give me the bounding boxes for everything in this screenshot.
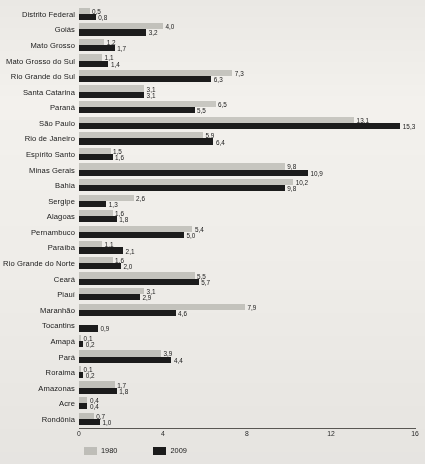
bar-value-label: 2,9 xyxy=(142,294,151,301)
bar-2009 xyxy=(79,357,171,363)
bar-value-label: 1,3 xyxy=(109,200,118,207)
bar-2009 xyxy=(79,107,195,113)
bar-row: Paraíba1,12,1 xyxy=(79,240,415,256)
bar-2009 xyxy=(79,294,140,300)
bar-value-label: 2,1 xyxy=(126,247,135,254)
bar-2009 xyxy=(79,61,108,67)
bar-value-label: 1,8 xyxy=(119,216,128,223)
bar-value-label: 5,4 xyxy=(195,225,204,232)
bar-value-label: 4,4 xyxy=(174,356,183,363)
legend-item-2009: 2009 xyxy=(153,446,186,455)
bar-value-label: 1,6 xyxy=(115,154,124,161)
bar-row: Paraná6,55,5 xyxy=(79,99,415,115)
bar-value-label: 6,5 xyxy=(218,101,227,108)
x-tick-12: 12 xyxy=(327,430,335,437)
bar-value-label: 7,9 xyxy=(247,303,256,310)
bar-2009 xyxy=(79,419,100,425)
bar-row: Distrito Federal0,50,8 xyxy=(79,6,415,22)
legend-swatch-2009 xyxy=(153,447,166,455)
category-label: Espírito Santo xyxy=(26,149,75,158)
bar-row: Rio Grande do Norte1,62,0 xyxy=(79,255,415,271)
bar-row: Maranhão7,94,6 xyxy=(79,302,415,318)
category-label: Rio Grande do Sul xyxy=(11,72,75,81)
bar-value-label: 0,4 xyxy=(90,403,99,410)
bar-value-label: 3,1 xyxy=(147,91,156,98)
bar-value-label: 1,0 xyxy=(103,418,112,425)
bar-value-label: 5,5 xyxy=(197,107,206,114)
bar-row: Alagoas1,61,8 xyxy=(79,209,415,225)
category-label: Santa Catarina xyxy=(23,87,75,96)
bar-value-label: 5,7 xyxy=(201,278,210,285)
bar-value-label: 15,3 xyxy=(403,122,415,129)
bar-row: Amapá0,10,2 xyxy=(79,333,415,349)
bar-2009 xyxy=(79,216,117,222)
bar-rows: Distrito Federal0,50,8Goiás4,03,2Mato Gr… xyxy=(79,6,415,427)
bar-value-label: 0,8 xyxy=(98,13,107,20)
bar-row: Santa Catarina3,13,1 xyxy=(79,84,415,100)
bar-value-label: 9,8 xyxy=(287,185,296,192)
bar-value-label: 4,0 xyxy=(166,23,175,30)
category-label: Rondônia xyxy=(42,414,75,423)
category-label: Pará xyxy=(59,352,75,361)
bar-2009 xyxy=(79,138,213,144)
bar-2009 xyxy=(79,263,121,269)
bar-value-label: 5,0 xyxy=(187,231,196,238)
category-label: Sergipe xyxy=(48,196,75,205)
category-label: Rio de Janeiro xyxy=(25,134,75,143)
bar-row: Sergipe2,61,3 xyxy=(79,193,415,209)
bar-2009 xyxy=(79,76,211,82)
bar-row: Espírito Santo1,51,6 xyxy=(79,146,415,162)
category-label: Mato Grosso xyxy=(30,40,75,49)
bar-row: Ceará5,55,7 xyxy=(79,271,415,287)
bar-2009 xyxy=(79,341,83,347)
bar-row: Pará3,94,4 xyxy=(79,349,415,365)
bar-row: Mato Grosso1,21,7 xyxy=(79,37,415,53)
bar-value-label: 6,3 xyxy=(214,76,223,83)
category-label: Tocantins xyxy=(42,321,75,330)
category-label: Distrito Federal xyxy=(22,9,75,18)
bar-row: Acre0,40,4 xyxy=(79,395,415,411)
bar-2009 xyxy=(79,310,176,316)
bar-value-label: 10,9 xyxy=(310,169,322,176)
bar-row: Bahia10,29,8 xyxy=(79,177,415,193)
category-label: Acre xyxy=(59,399,75,408)
bar-2009 xyxy=(79,45,115,51)
bar-2009 xyxy=(79,279,199,285)
bar-2009 xyxy=(79,372,83,378)
chart-container: Distrito Federal0,50,8Goiás4,03,2Mato Gr… xyxy=(0,0,425,464)
category-label: Maranhão xyxy=(40,305,75,314)
legend-label-2009: 2009 xyxy=(170,446,186,455)
bar-value-label: 3,2 xyxy=(149,29,158,36)
bar-2009 xyxy=(79,247,123,253)
x-axis-line xyxy=(79,428,416,429)
bar-value-label: 0,9 xyxy=(100,325,109,332)
plot-area: Distrito Federal0,50,8Goiás4,03,2Mato Gr… xyxy=(79,6,415,427)
bar-2009 xyxy=(79,403,87,409)
bar-2009 xyxy=(79,154,113,160)
bar-value-label: 10,2 xyxy=(296,179,308,186)
category-label: Goiás xyxy=(55,25,75,34)
bar-row: Minas Gerais9,810,9 xyxy=(79,162,415,178)
category-label: Minas Gerais xyxy=(29,165,75,174)
bar-row: Rio de Janeiro5,96,4 xyxy=(79,131,415,147)
bar-2009 xyxy=(79,388,117,394)
bar-row: Mato Grosso do Sul1,11,4 xyxy=(79,53,415,69)
bar-row: São Paulo13,115,3 xyxy=(79,115,415,131)
bar-2009 xyxy=(79,170,308,176)
legend-spacer xyxy=(124,450,146,451)
bar-value-label: 2,6 xyxy=(136,194,145,201)
category-label: Bahia xyxy=(55,181,75,190)
bar-value-label: 1,8 xyxy=(119,387,128,394)
category-label: Pernambuco xyxy=(31,227,75,236)
bar-value-label: 6,4 xyxy=(216,138,225,145)
category-label: Mato Grosso do Sul xyxy=(6,56,75,65)
x-tick-8: 8 xyxy=(245,430,249,437)
bar-row: Tocantins0,9 xyxy=(79,318,415,334)
x-tick-16: 16 xyxy=(411,430,419,437)
bar-value-label: 0,2 xyxy=(86,341,95,348)
category-label: Paraná xyxy=(50,103,75,112)
bar-value-label: 7,3 xyxy=(235,70,244,77)
bar-2009 xyxy=(79,201,106,207)
category-label: Roraima xyxy=(46,368,75,377)
bar-row: Goiás4,03,2 xyxy=(79,22,415,38)
